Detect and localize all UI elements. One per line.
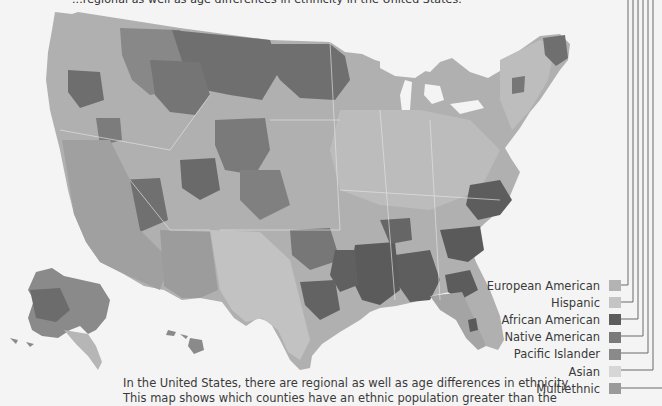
legend-item-hispanic: Hispanic [551,294,621,311]
legend-item-european-american: European American [487,277,621,294]
color-swatch [609,314,621,325]
legend-label: Asian [569,365,600,379]
legend-item-asian: Asian [569,363,621,380]
color-swatch [609,366,621,377]
legend-label: Pacific Islander [514,347,600,361]
legend-item-african-american: African American [502,311,621,328]
bottom-caption: In the United States, there are regional… [123,376,570,406]
color-swatch [609,297,621,308]
legend-label: European American [487,279,600,293]
legend-item-pacific-islander: Pacific Islander [514,346,621,363]
color-swatch [609,349,621,360]
legend-label: Native American [504,330,600,344]
hawaii [166,330,204,354]
caption-line-1: In the United States, there are regional… [123,376,570,391]
color-swatch [609,280,621,291]
legend-label: African American [502,313,600,327]
caption-line-2: This map shows which counties have an et… [123,391,570,406]
color-swatch [609,383,621,394]
legend-item-native-american: Native American [504,329,621,346]
color-swatch [609,332,621,343]
legend-label: Hispanic [551,296,600,310]
